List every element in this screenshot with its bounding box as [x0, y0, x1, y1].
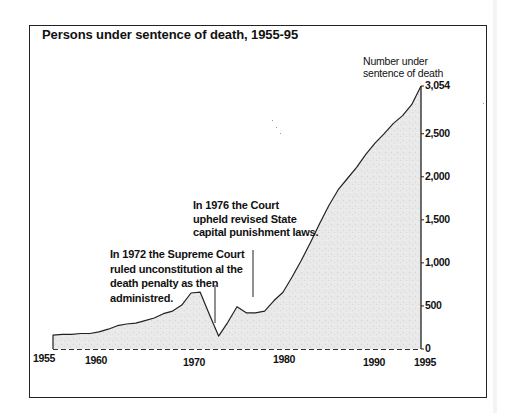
annotation-1976-line-2: upheld revised State: [193, 213, 318, 227]
scan-speck: [272, 120, 273, 121]
y-tick-label: 500: [425, 299, 442, 311]
annotation-1972-line-4: administred.: [110, 291, 244, 306]
annotation-1976-line-3: capital punishment laws.: [193, 226, 318, 240]
y-tick-label: 0: [425, 342, 431, 354]
y-tick-label: 1,500: [425, 213, 450, 225]
y-tick-label: 2,500: [425, 127, 450, 139]
y-tick-label: 3,054: [425, 79, 450, 91]
y-tick-label: 2,000: [425, 170, 450, 182]
annotation-1972-line-2: ruled unconstitution al the: [110, 262, 244, 277]
annotation-1972-line-1: In 1972 the Supreme Court: [110, 247, 244, 262]
x-tick-label: 1960: [85, 354, 107, 366]
x-tick-label: 1990: [363, 356, 385, 368]
annotation-1976: In 1976 the Court upheld revised State c…: [193, 199, 318, 240]
scan-speck: [276, 127, 277, 128]
annotation-1976-line-1: In 1976 the Court: [193, 199, 318, 213]
x-tick-label: 1980: [273, 353, 295, 365]
scan-speck: [483, 103, 484, 104]
y-tick-label: 1,000: [425, 256, 450, 268]
x-tick-label: 1995: [414, 356, 436, 368]
x-tick-label: 1970: [183, 356, 205, 368]
annotation-1972: In 1972 the Supreme Court ruled unconsti…: [110, 247, 244, 305]
annotation-1972-line-3: death penalty as then: [110, 276, 244, 291]
scan-speck: [280, 133, 281, 134]
x-tick-label: 1955: [33, 352, 55, 364]
